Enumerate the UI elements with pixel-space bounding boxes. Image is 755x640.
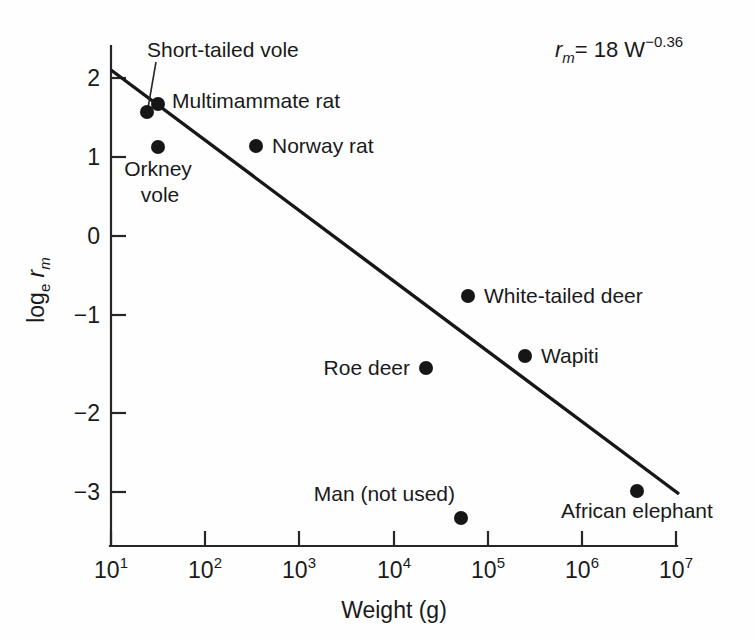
point-label-roe-deer: Roe deer <box>324 356 410 379</box>
x-tick-label: 104 <box>377 554 411 583</box>
x-tick-label: 103 <box>282 554 316 583</box>
datapoint-white-tailed-deer[interactable]: White-tailed deer <box>461 284 643 307</box>
point-label-norway-rat: Norway rat <box>272 134 374 157</box>
data-marker[interactable] <box>518 349 532 363</box>
regression-fit-line <box>111 70 679 494</box>
y-axis-ticks: 2 1 0 −1 −2 −3 <box>74 65 126 505</box>
data-marker[interactable] <box>454 511 468 525</box>
point-label-short-tailed-vole: Short-tailed vole <box>147 38 299 61</box>
y-tick-label: 1 <box>87 144 100 170</box>
datapoint-wapiti[interactable]: Wapiti <box>518 344 599 367</box>
y-tick-label: −2 <box>74 400 100 426</box>
data-marker[interactable] <box>151 97 165 111</box>
ylabel-base-sub: e <box>36 284 53 292</box>
y-tick-label: −1 <box>74 302 100 328</box>
equation-var-sub: m <box>562 49 575 66</box>
svg-text:loge rm: loge rm <box>23 257 53 323</box>
data-marker[interactable] <box>249 139 263 153</box>
datapoint-multimammate-rat[interactable]: Multimammate rat <box>151 89 340 112</box>
datapoint-norway-rat[interactable]: Norway rat <box>249 134 374 157</box>
ylabel-var-sub: m <box>36 257 53 270</box>
point-label-multimammate-rat: Multimammate rat <box>172 89 340 112</box>
y-tick-label: 0 <box>87 223 100 249</box>
ylabel-base: log <box>23 292 49 323</box>
data-marker[interactable] <box>461 289 475 303</box>
figure-container: 2 1 0 −1 −2 −3 101 102 103 104 105 106 1… <box>0 0 755 640</box>
equation-body: = 18 W <box>575 37 646 62</box>
x-axis-title: Weight (g) <box>341 597 447 623</box>
point-label-man: Man (not used) <box>314 482 455 505</box>
equation-annotation: rm= 18 W−0.36 <box>555 33 683 66</box>
equation-exponent: −0.36 <box>645 33 683 50</box>
datapoint-roe-deer[interactable]: Roe deer <box>324 356 433 379</box>
x-tick-label: 106 <box>565 554 599 583</box>
y-tick-label: −3 <box>74 479 100 505</box>
scatter-plot: 2 1 0 −1 −2 −3 101 102 103 104 105 106 1… <box>0 0 755 640</box>
datapoint-african-elephant[interactable]: African elephant <box>561 484 713 522</box>
x-tick-label: 101 <box>94 554 128 583</box>
x-tick-label: 107 <box>659 554 693 583</box>
data-marker[interactable] <box>419 361 433 375</box>
datapoint-orkney-vole[interactable]: Orkney vole <box>124 140 192 206</box>
point-label-orkney-vole-line2: vole <box>141 183 180 206</box>
datapoint-man[interactable]: Man (not used) <box>314 482 468 525</box>
x-tick-label: 105 <box>471 554 505 583</box>
y-axis-title: loge rm <box>23 257 53 323</box>
data-marker[interactable] <box>630 484 644 498</box>
y-tick-label: 2 <box>87 65 100 91</box>
x-tick-label: 102 <box>188 554 222 583</box>
x-axis-ticks: 101 102 103 104 105 106 107 <box>94 531 693 583</box>
point-label-white-tailed-deer: White-tailed deer <box>484 284 643 307</box>
point-label-african-elephant: African elephant <box>561 499 713 522</box>
point-label-orkney-vole-line1: Orkney <box>124 157 192 180</box>
data-marker[interactable] <box>151 140 165 154</box>
point-label-wapiti: Wapiti <box>541 344 599 367</box>
